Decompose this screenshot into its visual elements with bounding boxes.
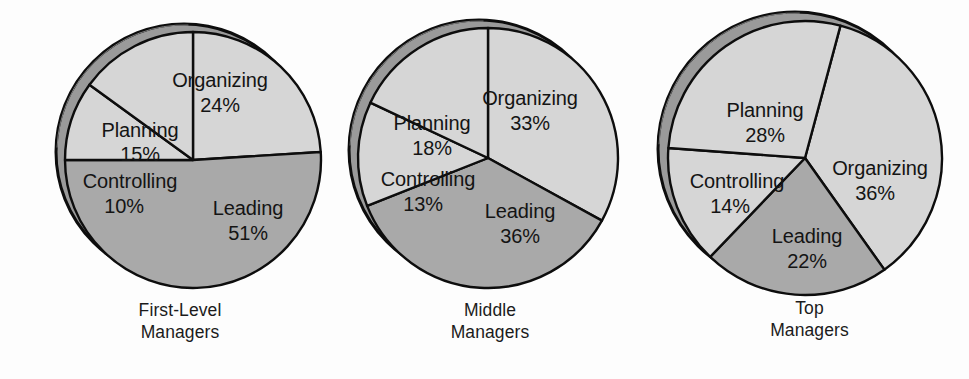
pie-caption-top-managers: TopManagers bbox=[650, 298, 969, 341]
caption-line: First-Level bbox=[20, 300, 340, 322]
slice-label-organizing: Organizing bbox=[832, 157, 928, 179]
pie-chart-middle-managers: Organizing33%Leading36%Controlling13%Pla… bbox=[340, 0, 640, 379]
caption-line: Top bbox=[650, 298, 969, 320]
slice-value-organizing: 36% bbox=[855, 182, 895, 204]
caption-line: Managers bbox=[340, 322, 640, 344]
slice-value-leading: 51% bbox=[228, 222, 268, 244]
caption-line: Middle bbox=[340, 300, 640, 322]
slice-value-controlling: 14% bbox=[710, 195, 750, 217]
slice-value-planning: 28% bbox=[745, 124, 785, 146]
slice-label-organizing: Organizing bbox=[172, 69, 268, 91]
slice-label-controlling: Controlling bbox=[83, 170, 178, 192]
pie-chart-first-level-managers: Organizing24%Leading51%Controlling10%Pla… bbox=[20, 0, 340, 379]
slice-label-controlling: Controlling bbox=[690, 170, 785, 192]
slice-label-controlling: Controlling bbox=[381, 168, 476, 190]
slice-value-leading: 22% bbox=[787, 250, 827, 272]
pie-caption-middle-managers: MiddleManagers bbox=[340, 300, 640, 343]
slice-label-planning: Planning bbox=[726, 99, 803, 121]
slice-value-organizing: 24% bbox=[200, 94, 240, 116]
pie-caption-first-level-managers: First-LevelManagers bbox=[20, 300, 340, 343]
slice-value-controlling: 10% bbox=[104, 195, 144, 217]
caption-line: Managers bbox=[650, 320, 969, 342]
slice-value-controlling: 13% bbox=[403, 193, 443, 215]
slice-label-leading: Leading bbox=[213, 197, 283, 219]
pie-chart-figure: Organizing24%Leading51%Controlling10%Pla… bbox=[0, 0, 969, 379]
slice-label-planning: Planning bbox=[393, 112, 470, 134]
slice-value-planning: 15% bbox=[120, 143, 160, 165]
slice-label-leading: Leading bbox=[485, 200, 555, 222]
slice-label-planning: Planning bbox=[101, 119, 178, 141]
slice-value-planning: 18% bbox=[412, 137, 452, 159]
slice-value-organizing: 33% bbox=[510, 112, 550, 134]
caption-line: Managers bbox=[20, 322, 340, 344]
slice-label-leading: Leading bbox=[772, 225, 842, 247]
slice-label-organizing: Organizing bbox=[482, 87, 578, 109]
pie-chart-top-managers: Organizing36%Leading22%Controlling14%Pla… bbox=[650, 0, 969, 379]
slice-value-leading: 36% bbox=[500, 225, 540, 247]
